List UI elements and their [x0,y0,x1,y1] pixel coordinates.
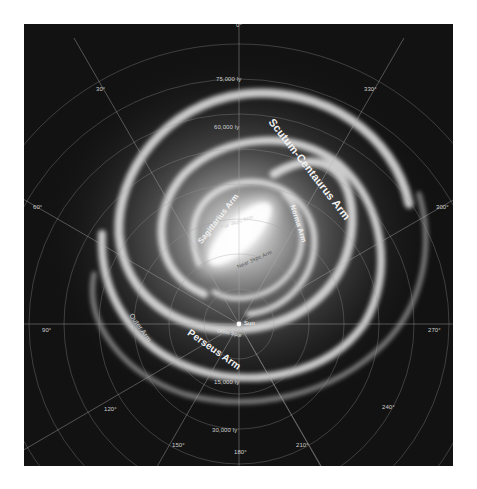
longitude-label-0: 0° [236,24,242,28]
longitude-label-120: 120° [104,406,117,412]
longitude-label-30: 30° [96,86,105,92]
distance-label-60000: 60,000 ly [214,124,239,130]
longitude-label-300: 300° [436,204,449,210]
longitude-label-60: 60° [33,204,42,210]
longitude-label-180: 180° [234,449,247,455]
sun-label: Sun [244,320,255,326]
distance-label-15000: 15,000 ly [214,379,239,385]
longitude-label-270: 270° [428,327,441,333]
longitude-label-210: 210° [296,442,309,448]
longitude-label-90: 90° [42,327,51,333]
sun-marker [237,322,242,327]
distance-label-30000: 30,000 ly [212,427,237,433]
longitude-label-330: 330° [364,86,377,92]
longitude-label-150: 150° [172,442,185,448]
galaxy-map: Galactic Longitude 0° 330° 300° 270° 240… [24,24,453,466]
longitude-label-240: 240° [382,404,395,410]
distance-label-75000: 75,000 ly [216,76,241,82]
galaxy-graphic [24,24,453,466]
